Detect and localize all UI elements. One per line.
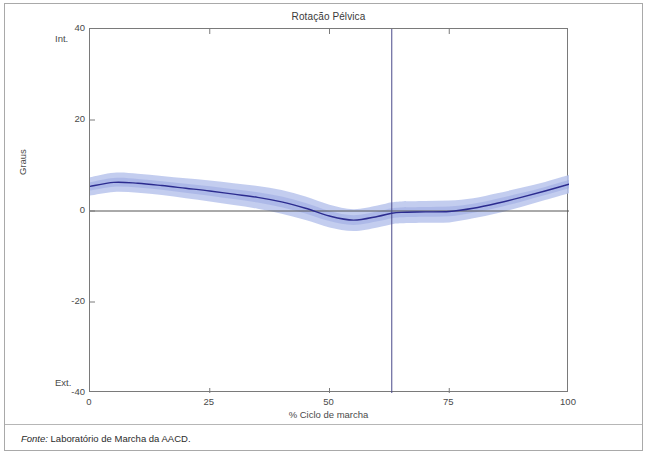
top-tick-marks <box>210 29 450 34</box>
chart-title: Rotação Pélvica <box>89 11 568 22</box>
x-tick-0: 0 <box>86 396 91 407</box>
footer-divider <box>5 424 642 425</box>
band-group <box>90 173 569 231</box>
source-caption: Fonte: Laboratório de Marcha da AACD. <box>21 433 191 444</box>
x-tick-75: 75 <box>443 396 454 407</box>
x-tick-25: 25 <box>203 396 214 407</box>
y-tick-0: 0 <box>51 204 85 215</box>
x-tick-50: 50 <box>323 396 334 407</box>
y-tick-40: 40 <box>51 22 85 33</box>
x-tick-100: 100 <box>560 396 576 407</box>
y-tick-20: 20 <box>51 113 85 124</box>
plot-area <box>89 28 568 392</box>
bottom-tick-marks <box>210 388 450 393</box>
y-axis-direction-top: Int. <box>55 33 68 44</box>
y-axis-direction-bottom: Ext. <box>55 377 71 388</box>
y-tick-neg20: -20 <box>51 295 85 306</box>
left-tick-marks <box>90 120 95 302</box>
source-text: Laboratório de Marcha da AACD. <box>48 433 191 444</box>
x-axis-tick-labels: 0 25 50 75 100 <box>89 396 568 410</box>
figure-page: Rotação Pélvica <box>0 0 649 457</box>
y-axis-title: Graus <box>17 149 28 175</box>
source-label: Fonte: <box>21 433 48 444</box>
chart-figure: Rotação Pélvica <box>0 0 649 457</box>
x-axis-title: % Ciclo de marcha <box>89 409 568 420</box>
plot-svg <box>90 29 569 393</box>
y-axis-tick-labels: 40 20 0 -20 -40 <box>49 28 85 392</box>
